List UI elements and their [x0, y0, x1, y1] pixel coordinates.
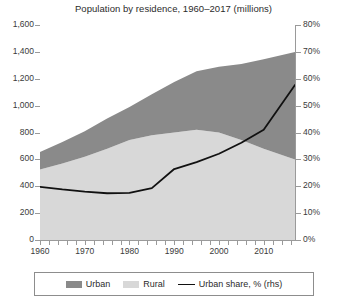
x-tick-label: 2010 — [244, 246, 284, 256]
x-tick-mark — [103, 241, 104, 245]
y-tick-mark-right — [296, 133, 301, 134]
x-tick-label: 1970 — [65, 246, 105, 256]
chart-legend: UrbanRuralUrban share, % (rhs) — [34, 272, 314, 296]
x-tick-mark — [67, 241, 68, 245]
legend-item[interactable]: Urban share, % (rhs) — [178, 279, 283, 289]
x-tick-mark — [156, 241, 157, 245]
y-tick-label-left: 0 — [0, 234, 34, 244]
legend-swatch — [66, 281, 82, 288]
x-tick-mark — [165, 241, 166, 245]
y-tick-label-left: 800 — [0, 127, 34, 137]
y-tick-label-right: 30% — [303, 153, 339, 163]
y-tick-mark-right — [296, 52, 301, 53]
x-tick-mark — [228, 241, 229, 245]
legend-line-marker — [178, 284, 195, 285]
series-layer — [40, 25, 295, 240]
legend-item[interactable]: Rural — [123, 279, 165, 289]
x-tick-label: 2000 — [199, 246, 239, 256]
y-tick-label-right: 60% — [303, 73, 339, 83]
x-tick-mark — [210, 241, 211, 245]
y-tick-label-right: 0% — [303, 234, 339, 244]
y-tick-mark-right — [296, 213, 301, 214]
x-tick-mark — [273, 241, 274, 245]
y-tick-mark-right — [296, 25, 301, 26]
x-tick-mark — [40, 241, 41, 245]
y-tick-label-left: 1,600 — [0, 19, 34, 29]
x-tick-mark — [291, 241, 292, 245]
y-tick-label-right: 20% — [303, 180, 339, 190]
x-tick-mark — [246, 241, 247, 245]
legend-label: Urban — [86, 279, 111, 289]
y-tick-mark-right — [296, 106, 301, 107]
x-tick-mark — [264, 241, 265, 245]
y-tick-label-left: 1,400 — [0, 46, 34, 56]
y-tick-label-left: 600 — [0, 153, 34, 163]
y-tick-mark-right — [296, 159, 301, 160]
legend-label: Rural — [143, 279, 165, 289]
x-tick-mark — [219, 241, 220, 245]
chart-title: Population by residence, 1960–2017 (mill… — [0, 3, 347, 14]
axis-line-right — [295, 25, 296, 240]
x-tick-label: 1980 — [109, 246, 149, 256]
x-tick-mark — [129, 241, 130, 245]
x-tick-mark — [49, 241, 50, 245]
y-tick-label-left: 400 — [0, 180, 34, 190]
legend-swatch — [123, 281, 139, 288]
x-tick-mark — [237, 241, 238, 245]
y-tick-mark-right — [296, 79, 301, 80]
y-tick-mark-right — [296, 240, 301, 241]
x-tick-mark — [201, 241, 202, 245]
x-tick-label: 1990 — [154, 246, 194, 256]
x-tick-mark — [192, 241, 193, 245]
x-tick-mark — [58, 241, 59, 245]
x-tick-mark — [282, 241, 283, 245]
y-tick-label-right: 80% — [303, 19, 339, 29]
y-tick-label-right: 10% — [303, 207, 339, 217]
y-tick-label-right: 70% — [303, 46, 339, 56]
legend-label: Urban share, % (rhs) — [199, 279, 283, 289]
x-tick-mark — [121, 241, 122, 245]
x-tick-mark — [112, 241, 113, 245]
x-tick-mark — [94, 241, 95, 245]
x-tick-mark — [138, 241, 139, 245]
y-tick-mark-right — [296, 186, 301, 187]
axis-line-bottom — [40, 240, 296, 241]
legend-item[interactable]: Urban — [66, 279, 111, 289]
plot-area — [40, 25, 295, 240]
x-tick-label: 1960 — [20, 246, 60, 256]
chart-container: Population by residence, 1960–2017 (mill… — [0, 0, 347, 304]
y-tick-label-right: 40% — [303, 127, 339, 137]
x-tick-mark — [174, 241, 175, 245]
x-tick-mark — [255, 241, 256, 245]
y-tick-label-right: 50% — [303, 100, 339, 110]
y-tick-label-left: 1,200 — [0, 73, 34, 83]
y-tick-label-left: 1,000 — [0, 100, 34, 110]
x-tick-mark — [183, 241, 184, 245]
x-tick-mark — [147, 241, 148, 245]
y-tick-label-left: 200 — [0, 207, 34, 217]
x-tick-mark — [76, 241, 77, 245]
x-tick-mark — [85, 241, 86, 245]
